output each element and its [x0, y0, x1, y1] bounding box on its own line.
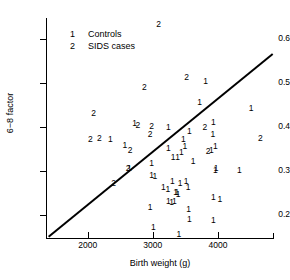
data-point-control: 1 [249, 104, 254, 113]
data-point-control: 1 [108, 135, 113, 144]
data-point-control: 1 [148, 203, 153, 212]
data-point-sids-case: 2 [91, 109, 96, 118]
data-point-sids-case: 2 [142, 83, 147, 92]
data-point-control: 1 [127, 163, 132, 172]
data-point-sids-case: 2 [148, 129, 153, 138]
data-point-sids-case: 2 [88, 135, 93, 144]
legend: 1 Controls 2 SIDS cases [70, 28, 135, 52]
data-point-control: 1 [218, 195, 223, 204]
data-point-control: 1 [186, 183, 191, 192]
data-point-control: 1 [122, 141, 127, 150]
data-point-control: 1 [132, 119, 137, 128]
data-point-control: 1 [187, 215, 192, 224]
data-point-control: 1 [166, 122, 171, 131]
data-point-sids-case: 2 [184, 73, 189, 82]
reference-line-svg [0, 0, 290, 280]
legend-symbol-controls: 1 [70, 28, 88, 40]
data-point-control: 1 [165, 185, 170, 194]
data-point-control: 1 [151, 223, 156, 232]
scatter-plot: 0.20.30.40.50.6 200030004000 22222222222… [0, 0, 290, 280]
identity-reference-line [49, 54, 273, 237]
y-axis-title: 6−8 factor [5, 73, 15, 153]
data-point-control: 1 [197, 98, 202, 107]
data-point-control: 1 [210, 130, 215, 139]
legend-label-sids-cases: SIDS cases [88, 40, 135, 52]
data-point-sids-case: 2 [203, 122, 208, 131]
data-point-sids-case: 2 [111, 179, 116, 188]
data-point-control: 1 [211, 118, 216, 127]
data-point-sids-case: 2 [258, 133, 263, 142]
data-point-control: 1 [175, 153, 180, 162]
data-point-control: 1 [177, 229, 182, 238]
data-point-sids-case: 2 [128, 146, 133, 155]
data-point-control: 1 [191, 156, 196, 165]
data-point-control: 1 [152, 172, 157, 181]
data-point-control: 1 [203, 77, 208, 86]
x-axis-title: Birth weight (g) [46, 258, 274, 268]
data-point-sids-case: 2 [156, 20, 161, 29]
data-point-control: 1 [149, 159, 154, 168]
data-point-control: 1 [186, 205, 191, 214]
data-point-control: 1 [211, 216, 216, 225]
data-point-control: 1 [211, 193, 216, 202]
data-point-sids-case: 2 [97, 133, 102, 142]
legend-symbol-sids-cases: 2 [70, 40, 88, 52]
legend-item-controls: 1 Controls [70, 28, 135, 40]
data-point-control: 1 [187, 127, 192, 136]
data-point-control: 1 [170, 177, 175, 186]
legend-label-controls: Controls [88, 28, 122, 40]
data-point-control: 1 [209, 145, 214, 154]
data-point-control: 1 [213, 166, 218, 175]
legend-item-sids-cases: 2 SIDS cases [70, 40, 135, 52]
data-point-control: 1 [237, 166, 242, 175]
data-point-control: 1 [172, 197, 177, 206]
